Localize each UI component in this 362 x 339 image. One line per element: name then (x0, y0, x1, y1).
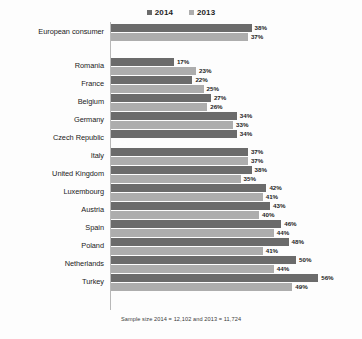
bar-2013 (111, 211, 259, 219)
bar-2014 (111, 274, 318, 282)
bar-value-label: #N/A (113, 139, 127, 147)
bar-value-label: 40% (262, 211, 274, 219)
category-label: United Kingdom (0, 169, 104, 178)
bar-2014 (111, 76, 192, 84)
category-label: Netherlands (0, 259, 104, 268)
bar-value-label: 49% (295, 283, 307, 291)
legend-label-2013: 2013 (197, 8, 215, 17)
bar-value-label: 23% (199, 67, 211, 75)
category-label: Austria (0, 205, 104, 214)
bar-2013 (111, 175, 241, 183)
category-label: Germany (0, 115, 104, 124)
bar-2014 (111, 94, 211, 102)
bar-value-label: 34% (240, 130, 252, 138)
bar-value-label: 38% (255, 24, 267, 32)
bar-value-label: 33% (236, 121, 248, 129)
bar-value-label: 37% (251, 33, 263, 41)
bar-2014 (111, 184, 266, 192)
bar-2013 (111, 67, 196, 75)
bar-2013 (111, 193, 263, 201)
bar-value-label: 41% (266, 247, 278, 255)
bar-value-label: 44% (277, 265, 289, 273)
bar-2013 (111, 157, 248, 165)
legend-swatch-2014 (147, 10, 152, 15)
category-label: Romania (0, 61, 104, 70)
bar-2013 (111, 283, 292, 291)
bar-value-label: 34% (240, 112, 252, 120)
bar-2014 (111, 148, 248, 156)
bar-value-label: 50% (299, 256, 311, 264)
bar-2014 (111, 238, 289, 246)
category-label: Luxembourg (0, 187, 104, 196)
category-label: Turkey (0, 277, 104, 286)
plot-area: European consumer38%37%Romania17%23%Fran… (0, 22, 362, 310)
bar-2013 (111, 85, 204, 93)
bar-value-label: 22% (195, 76, 207, 84)
bar-value-label: 44% (277, 229, 289, 237)
category-label: Czech Republic (0, 133, 104, 142)
bar-chart: 2014 2013 European consumer38%37%Romania… (0, 0, 362, 339)
bar-2013 (111, 33, 248, 41)
bar-value-label: 46% (284, 220, 296, 228)
bar-value-label: 37% (251, 148, 263, 156)
bar-value-label: 25% (207, 85, 219, 93)
category-label: France (0, 79, 104, 88)
bar-value-label: 27% (214, 94, 226, 102)
bar-2014 (111, 130, 237, 138)
bar-2013 (111, 229, 274, 237)
bar-value-label: 41% (266, 193, 278, 201)
category-label: Poland (0, 241, 104, 250)
bar-value-label: 26% (210, 103, 222, 111)
category-label: European consumer (0, 27, 104, 36)
bar-2013 (111, 103, 207, 111)
chart-legend: 2014 2013 (0, 8, 362, 17)
bar-value-label: 56% (321, 274, 333, 282)
legend-label-2014: 2014 (155, 8, 173, 17)
bar-2014 (111, 202, 270, 210)
bar-value-label: 17% (177, 58, 189, 66)
legend-entry-2014: 2014 (147, 8, 173, 17)
bar-value-label: 37% (251, 157, 263, 165)
bar-value-label: 43% (273, 202, 285, 210)
bar-value-label: 38% (255, 166, 267, 174)
category-label: Belgium (0, 97, 104, 106)
category-label: Italy (0, 151, 104, 160)
bar-2014 (111, 166, 252, 174)
bar-2014 (111, 220, 281, 228)
category-label: Spain (0, 223, 104, 232)
bar-value-label: 48% (292, 238, 304, 246)
bar-2014 (111, 58, 174, 66)
bar-2014 (111, 24, 252, 32)
legend-entry-2013: 2013 (189, 8, 215, 17)
bar-2014 (111, 256, 296, 264)
chart-footnote: Sample size 2014 = 12,102 and 2013 = 11,… (0, 316, 362, 322)
bar-value-label: 42% (269, 184, 281, 192)
bar-2014 (111, 112, 237, 120)
bar-value-label: 35% (244, 175, 256, 183)
legend-swatch-2013 (189, 10, 194, 15)
bar-2013 (111, 121, 233, 129)
bar-2013 (111, 247, 263, 255)
bar-2013 (111, 265, 274, 273)
